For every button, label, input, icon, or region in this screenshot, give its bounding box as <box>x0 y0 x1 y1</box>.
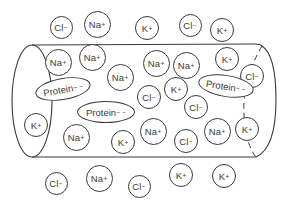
na-plus-ion: Na+ <box>173 52 200 79</box>
cl-minus-ion: Cl− <box>179 14 202 37</box>
ion-label: Na <box>209 126 221 137</box>
ion-label: Cl <box>142 92 151 103</box>
ion-charge: + <box>96 54 100 61</box>
ion-charge: + <box>190 62 194 69</box>
ion-charge: + <box>80 134 84 141</box>
protein-charge: − − <box>117 109 126 116</box>
ion-label: Na <box>91 173 103 184</box>
ion-charge: + <box>249 126 253 133</box>
ion-label: K <box>219 171 225 182</box>
ion-label: K <box>31 120 37 131</box>
k-plus-ion: K+ <box>235 117 259 141</box>
ion-label: Na <box>84 52 96 63</box>
ion-label: Na <box>112 72 124 83</box>
protein-anion: Protein− − <box>77 101 135 123</box>
k-plus-ion: K+ <box>169 163 193 187</box>
ion-charge: + <box>183 172 187 179</box>
cl-minus-ion: Cl− <box>184 95 208 119</box>
ion-label: K <box>118 137 124 148</box>
ion-label: K <box>171 84 177 95</box>
cylinder-top-edge <box>32 44 262 46</box>
protein-label: Protein <box>42 82 74 98</box>
ion-label: K <box>176 170 182 181</box>
k-plus-ion: K+ <box>164 77 188 101</box>
protein-label: Protein <box>205 77 236 93</box>
ion-charge: + <box>160 60 164 67</box>
ion-charge: − <box>193 22 197 29</box>
protein-label: Protein <box>86 107 116 118</box>
ion-charge: + <box>124 74 128 81</box>
na-plus-ion: Na+ <box>63 124 90 151</box>
ion-charge: + <box>103 175 107 182</box>
ion-label: K <box>142 23 148 34</box>
ion-charge: + <box>125 139 129 146</box>
k-plus-ion: K+ <box>135 16 159 40</box>
na-plus-ion: Na+ <box>107 64 134 91</box>
na-plus-ion: Na+ <box>140 118 167 145</box>
ion-label: Na <box>178 60 190 71</box>
k-plus-ion: K+ <box>212 164 236 188</box>
ion-charge: + <box>226 173 230 180</box>
ion-charge: − <box>64 24 68 31</box>
na-plus-ion: Na+ <box>143 50 170 77</box>
protein-charge: − − <box>73 82 83 91</box>
protein-charge: − − <box>236 84 246 92</box>
ion-charge: + <box>229 56 233 63</box>
na-plus-ion: Na+ <box>84 11 111 38</box>
k-plus-ion: K+ <box>215 47 239 71</box>
na-plus-ion: Na+ <box>79 44 106 71</box>
cl-minus-ion: Cl− <box>137 85 161 109</box>
na-plus-ion: Na+ <box>45 49 72 76</box>
ion-charge: − <box>142 183 146 190</box>
ion-label: K <box>222 54 228 65</box>
ion-label: Cl <box>183 20 192 31</box>
ion-label: Cl <box>189 102 198 113</box>
axon-ion-diagram: Cl−Na+K+Cl−K+Na+Na+Na+Na+Na+K+Cl−Cl−K+Cl… <box>0 0 282 208</box>
cl-minus-ion: Cl− <box>45 172 68 195</box>
ion-charge: − <box>255 73 259 80</box>
cl-minus-ion: Cl− <box>128 175 151 198</box>
ion-charge: + <box>178 86 182 93</box>
ion-charge: − <box>199 104 203 111</box>
ion-label: Cl <box>49 178 58 189</box>
ion-label: Cl <box>132 181 141 192</box>
cl-minus-ion: Cl− <box>50 16 73 39</box>
k-plus-ion: K+ <box>210 18 234 42</box>
ion-label: K <box>242 124 248 135</box>
na-plus-ion: Na+ <box>86 165 113 192</box>
ion-label: Na <box>145 126 157 137</box>
ion-charge: + <box>62 59 66 66</box>
ion-label: Cl <box>54 22 63 33</box>
ion-label: Na <box>50 57 62 68</box>
ion-charge: + <box>157 128 161 135</box>
ion-charge: + <box>224 27 228 34</box>
k-plus-ion: K+ <box>24 113 48 137</box>
ion-charge: − <box>59 180 63 187</box>
ion-charge: + <box>101 21 105 28</box>
na-plus-ion: Na+ <box>204 118 231 145</box>
ion-label: Na <box>89 19 101 30</box>
ion-charge: + <box>221 128 225 135</box>
k-plus-ion: K+ <box>111 130 135 154</box>
ion-label: Cl <box>245 71 254 82</box>
cylinder-right-end <box>256 46 276 157</box>
ion-label: K <box>217 25 223 36</box>
cl-minus-ion: Cl− <box>174 129 198 153</box>
ion-charge: + <box>149 25 153 32</box>
ion-label: Na <box>68 132 80 143</box>
ion-charge: + <box>38 122 42 129</box>
ion-charge: − <box>189 138 193 145</box>
ion-label: Na <box>148 58 160 69</box>
ion-label: Cl <box>179 136 188 147</box>
ion-charge: − <box>152 94 156 101</box>
